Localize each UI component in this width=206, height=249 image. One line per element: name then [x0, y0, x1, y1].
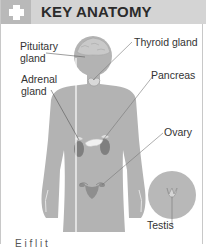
- thyroid-label: Thyroid gland: [134, 36, 198, 48]
- key-anatomy-panel: KEY ANATOMY: [0, 0, 203, 244]
- testis-label: Testis: [147, 219, 174, 231]
- pituitary-label-line1: Pituitary: [20, 40, 58, 52]
- adrenal-label: Adrenal gland: [21, 73, 57, 97]
- footer-text-cutoff: E i f l i t: [15, 238, 48, 249]
- pituitary-label: Pituitary gland: [20, 40, 58, 64]
- adrenal-label-line2: gland: [21, 85, 57, 97]
- torso-shape: [42, 84, 146, 232]
- adrenal-label-line1: Adrenal: [21, 73, 57, 85]
- pancreas-label: Pancreas: [151, 69, 195, 81]
- pituitary-label-line2: gland: [20, 52, 58, 64]
- ovary-label: Ovary: [164, 126, 192, 138]
